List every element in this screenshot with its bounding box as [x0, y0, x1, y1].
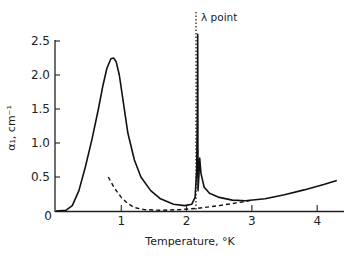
y-tick-label: 1.0	[31, 136, 50, 150]
origin-label: 0	[44, 209, 52, 223]
x-tick-label: 4	[313, 214, 321, 228]
y-tick-label: 2.5	[31, 34, 50, 48]
x-tick-label: 1	[117, 214, 125, 228]
y-axis-label: α₁, cm⁻¹	[5, 105, 18, 151]
y-tick-label: 0.5	[31, 170, 50, 184]
chart: 0.51.01.52.02.5 1234 0 λ point Temperatu…	[0, 0, 358, 259]
lambda-point-label: λ point	[201, 11, 237, 23]
y-tick-label: 2.0	[31, 68, 50, 82]
x-tick-label: 3	[248, 214, 256, 228]
axes: 0.51.01.52.02.5 1234 0	[31, 34, 344, 228]
x-ticks: 1234	[117, 205, 321, 228]
series-solid-curve	[56, 34, 337, 211]
y-tick-label: 1.5	[31, 102, 50, 116]
x-axis-label: Temperature, °K	[144, 235, 235, 248]
x-tick-label: 2	[183, 214, 191, 228]
